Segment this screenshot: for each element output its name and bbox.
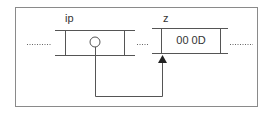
pointer-circle-icon [90, 37, 100, 47]
label-z: z [163, 13, 169, 24]
pointer-connector [96, 47, 168, 97]
arrow-up-icon [158, 55, 167, 63]
label-ip: ip [65, 13, 74, 24]
value-z: 00 0D [162, 35, 220, 46]
outer-frame [16, 8, 258, 107]
diagram-canvas [0, 0, 270, 113]
